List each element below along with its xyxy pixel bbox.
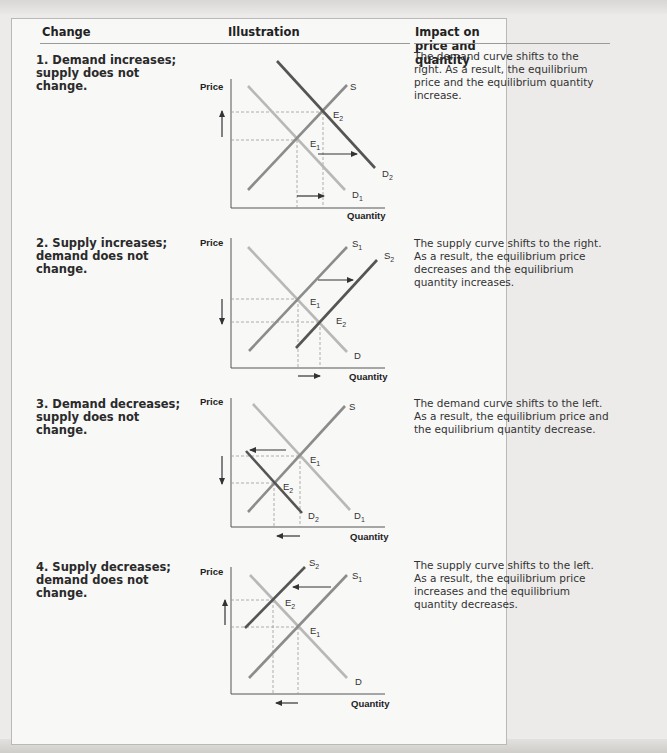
label-s2: S2 [384, 250, 394, 263]
supply-curve-s2 [296, 260, 377, 348]
x-axis-label: Quantity [347, 210, 386, 221]
illustrations: Price Quantity S E2 E1 D2 D1 Price Quant… [0, 0, 667, 753]
label-s1: S1 [352, 238, 362, 251]
y-axis-label: Price [200, 81, 223, 92]
label-s1: S1 [352, 570, 362, 583]
supply-curve-s [248, 406, 345, 512]
y-axis-label: Price [200, 396, 223, 407]
demand-curve-d1 [253, 404, 350, 510]
y-axis-label: Price [200, 566, 223, 577]
label-d2: D2 [308, 510, 319, 523]
label-e1: E1 [310, 625, 320, 638]
label-e2: E2 [333, 109, 343, 122]
label-e2: E2 [336, 315, 346, 328]
label-e1: E1 [310, 138, 320, 151]
label-e2: E2 [285, 597, 295, 610]
demand-curve-d2 [277, 61, 375, 168]
x-axis-label: Quantity [349, 371, 388, 382]
label-d: D [354, 350, 361, 361]
supply-curve-s2 [245, 567, 305, 628]
label-s: S [349, 401, 355, 412]
x-axis-label: Quantity [350, 531, 389, 542]
chart-3-demand-decreases: Price Quantity S E1 E2 D2 D1 [200, 396, 389, 542]
label-s2: S2 [309, 557, 319, 570]
label-e1: E1 [310, 454, 320, 467]
chart-1-demand-increases: Price Quantity S E2 E1 D2 D1 [200, 61, 393, 221]
chart-2-supply-increases: Price Quantity S1 S2 E1 E2 D [200, 237, 394, 382]
label-d: D [355, 676, 362, 687]
label-s: S [350, 81, 356, 92]
x-axis-label: Quantity [351, 698, 390, 709]
label-e1: E1 [310, 296, 320, 309]
y-axis-label: Price [200, 237, 223, 248]
label-d1: D1 [354, 510, 365, 523]
chart-4-supply-decreases: Price Quantity S2 S1 E2 E1 D [200, 557, 390, 709]
label-d2: D2 [382, 168, 393, 181]
label-d1: D1 [352, 189, 363, 202]
